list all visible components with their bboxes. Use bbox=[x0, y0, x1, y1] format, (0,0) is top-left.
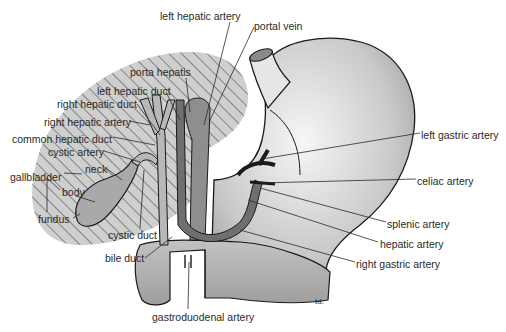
label-neck: neck bbox=[85, 163, 107, 175]
label-common-hepatic-duct: common hepatic duct bbox=[12, 133, 112, 145]
label-left-gastric-artery: left gastric artery bbox=[421, 129, 499, 141]
label-gallbladder: gallbladder bbox=[10, 171, 61, 183]
label-right-hepatic-artery: right hepatic artery bbox=[44, 116, 131, 128]
artist-signature: td. bbox=[315, 296, 324, 308]
label-gastroduodenal-artery: gastroduodenal artery bbox=[152, 311, 254, 323]
label-porta-hepatis: porta hepatis bbox=[130, 66, 191, 78]
label-left-hepatic-artery: left hepatic artery bbox=[160, 10, 241, 22]
label-splenic-artery: splenic artery bbox=[387, 218, 449, 230]
label-body: body bbox=[62, 186, 85, 198]
label-cystic-duct: cystic duct bbox=[108, 229, 157, 241]
anatomy-illustration bbox=[0, 0, 506, 332]
label-celiac-artery: celiac artery bbox=[417, 175, 474, 187]
gastroduodenal-vessel bbox=[185, 255, 191, 268]
label-right-gastric-artery: right gastric artery bbox=[356, 258, 440, 270]
label-hepatic-artery: hepatic artery bbox=[380, 238, 444, 250]
label-cystic-artery: cystic artery bbox=[48, 146, 104, 158]
label-bile-duct: bile duct bbox=[105, 252, 144, 264]
label-fundus: fundus bbox=[38, 213, 70, 225]
anatomy-diagram: left hepatic artery portal vein porta he… bbox=[0, 0, 506, 332]
label-portal-vein: portal vein bbox=[254, 20, 302, 32]
label-left-hepatic-duct: left hepatic duct bbox=[97, 85, 171, 97]
label-right-hepatic-duct: right hepatic duct bbox=[57, 98, 137, 110]
